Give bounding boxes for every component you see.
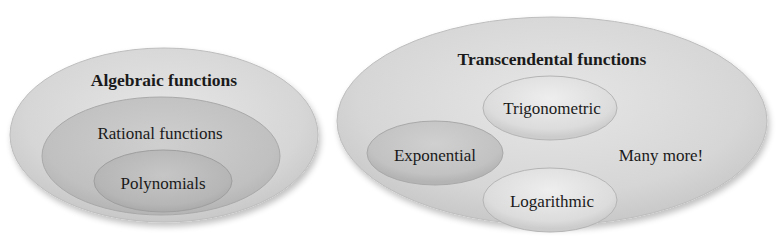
polynomials-label: Polynomials xyxy=(120,175,205,192)
rational-functions-label: Rational functions xyxy=(97,125,222,142)
algebraic-functions-title: Algebraic functions xyxy=(91,72,237,90)
many-more-note: Many more! xyxy=(619,147,704,164)
exponential-label: Exponential xyxy=(394,147,476,164)
logarithmic-label: Logarithmic xyxy=(510,193,594,210)
transcendental-functions-title: Transcendental functions xyxy=(458,51,647,69)
trigonometric-label: Trigonometric xyxy=(503,100,601,117)
